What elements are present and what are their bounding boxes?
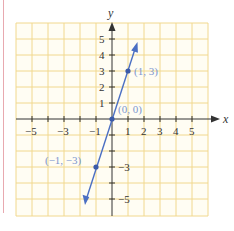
coordinate-plane: y x −5 −3 −1 1 2 3 4 5 5 4 3 2 1 −3 −5 (… bbox=[0, 0, 234, 231]
x-tick-label: 1 bbox=[125, 125, 131, 137]
y-tick-label: 1 bbox=[99, 97, 105, 109]
x-tick-label: 3 bbox=[157, 125, 163, 137]
x-tick-label: 5 bbox=[189, 125, 195, 137]
x-axis-label: x bbox=[222, 112, 229, 126]
point-neg1-neg3 bbox=[93, 164, 98, 169]
y-tick-label: 4 bbox=[99, 49, 105, 61]
point-origin bbox=[109, 116, 114, 121]
x-tick-label: −3 bbox=[57, 125, 69, 137]
point-label-1-3: (1, 3) bbox=[134, 65, 158, 78]
x-axis-arrow-icon bbox=[211, 116, 220, 123]
x-tick-label: 2 bbox=[141, 125, 147, 137]
y-tick-label: −3 bbox=[118, 161, 130, 173]
y-tick-label: −5 bbox=[118, 193, 130, 205]
point-label-origin: (0, 0) bbox=[118, 103, 142, 116]
y-tick-label: 5 bbox=[99, 33, 105, 45]
y-tick-label: 3 bbox=[99, 65, 105, 77]
y-axis-label: y bbox=[107, 6, 114, 20]
point-1-3 bbox=[125, 68, 130, 73]
y-tick-label: 2 bbox=[99, 81, 105, 93]
point-label-neg1-neg3: (−1, −3) bbox=[45, 154, 82, 167]
x-tick-label: −1 bbox=[89, 125, 101, 137]
x-tick-label: −5 bbox=[25, 125, 37, 137]
x-tick-label: 4 bbox=[173, 125, 179, 137]
